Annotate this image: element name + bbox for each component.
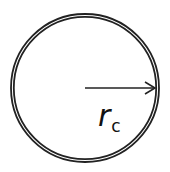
- radius-label: rc: [98, 98, 120, 133]
- radius-symbol: r: [98, 98, 110, 133]
- circle-diagram: [0, 0, 170, 172]
- radius-subscript: c: [111, 116, 120, 136]
